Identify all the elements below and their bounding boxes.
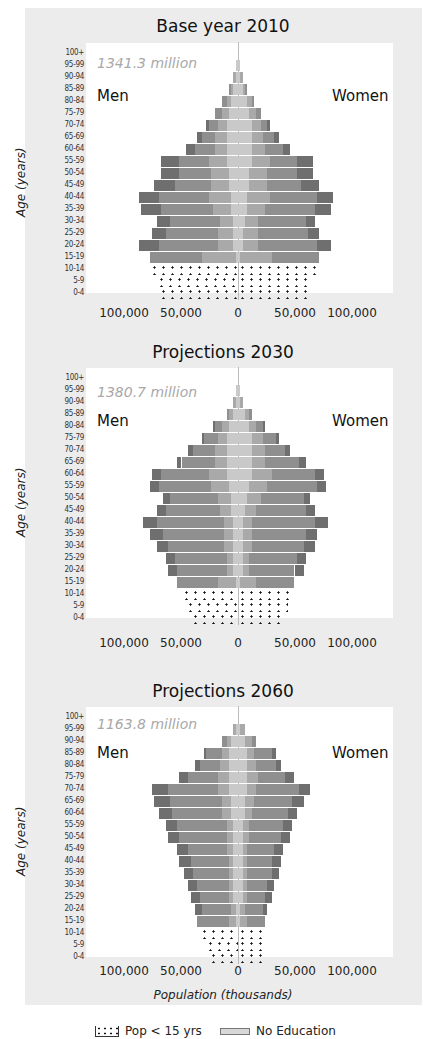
secondary-segment — [222, 736, 227, 747]
secondary-segment — [179, 168, 211, 179]
age-tick-label: 20-24 — [65, 240, 84, 250]
x-tick-label: 0 — [234, 306, 242, 320]
legend-item-no-education: No Education — [220, 1024, 336, 1038]
secondary-segment — [170, 216, 220, 227]
secondary-segment — [200, 892, 229, 903]
no-education-segment — [229, 481, 238, 492]
no-education-segment — [227, 445, 238, 456]
primary-segment — [245, 505, 256, 516]
age-tick-label: 50-54 — [65, 168, 84, 178]
age-tick-label: 95-99 — [65, 724, 84, 734]
y-axis-label: Age (years) — [14, 148, 28, 217]
primary-segment — [247, 493, 261, 504]
secondary-segment — [270, 156, 297, 167]
x-tick-label: 0 — [234, 964, 242, 978]
under-15-bar — [238, 276, 313, 287]
age-tick-label: 80-84 — [65, 760, 84, 770]
under-15-bar — [200, 928, 238, 939]
primary-segment — [243, 240, 259, 251]
primary-segment — [243, 228, 259, 239]
no-education-segment — [238, 481, 249, 492]
women-label: Women — [332, 744, 388, 762]
primary-segment — [215, 445, 226, 456]
age-tick-label: 30-34 — [65, 541, 84, 551]
primary-segment — [252, 156, 270, 167]
secondary-segment — [252, 541, 304, 552]
secondary-segment — [256, 784, 299, 795]
age-tick-label: 25-29 — [65, 228, 84, 238]
secondary-segment — [170, 493, 217, 504]
tertiary-segment — [306, 216, 315, 227]
secondary-segment — [215, 421, 222, 432]
tertiary-segment — [191, 892, 200, 903]
primary-segment — [243, 820, 250, 831]
no-education-segment — [238, 168, 249, 179]
no-education-segment — [229, 421, 238, 432]
dots-swatch-icon — [95, 1026, 119, 1037]
tertiary-segment — [315, 204, 331, 215]
under-15-bar — [209, 952, 238, 963]
age-tick-label: 45-49 — [65, 180, 84, 190]
no-education-segment — [229, 108, 238, 119]
tertiary-segment — [276, 760, 281, 771]
primary-segment — [240, 397, 242, 408]
no-education-segment — [238, 445, 252, 456]
primary-segment — [222, 421, 229, 432]
age-tick-label: 5-9 — [73, 601, 84, 611]
primary-segment — [229, 868, 234, 879]
women-label: Women — [332, 412, 388, 430]
no-education-segment — [238, 772, 247, 783]
secondary-segment — [247, 856, 272, 867]
tertiary-segment — [168, 832, 179, 843]
tertiary-segment — [304, 541, 315, 552]
primary-segment — [218, 120, 227, 131]
primary-segment — [211, 180, 229, 191]
under-15-bar — [186, 601, 238, 612]
secondary-segment — [252, 529, 306, 540]
tertiary-segment — [195, 904, 202, 915]
no-education-segment — [238, 808, 245, 819]
age-tick-label: 80-84 — [65, 96, 84, 106]
no-education-segment — [231, 96, 238, 107]
secondary-segment — [265, 204, 315, 215]
x-tick-label: 100,000 — [99, 636, 149, 650]
secondary-segment — [249, 565, 294, 576]
tertiary-segment — [272, 868, 279, 879]
age-tick-label: 65-69 — [65, 457, 84, 467]
secondary-segment — [172, 808, 222, 819]
total-population: 1380.7 million — [97, 384, 197, 400]
secondary-segment — [272, 252, 319, 263]
no-education-segment — [227, 120, 238, 131]
primary-segment — [252, 445, 266, 456]
tertiary-segment — [283, 144, 290, 155]
primary-segment — [227, 820, 234, 831]
secondary-segment — [249, 820, 283, 831]
x-tick-label: 50,000 — [274, 306, 316, 320]
secondary-segment — [265, 144, 283, 155]
x-axis-ticks: 100,00050,000050,000100,000 — [0, 306, 446, 322]
legend-label: No Education — [256, 1024, 336, 1038]
primary-segment — [249, 180, 267, 191]
tertiary-segment — [186, 144, 195, 155]
under-15-bar — [157, 276, 238, 287]
secondary-segment — [261, 120, 268, 131]
x-tick-label: 100,000 — [327, 964, 377, 978]
secondary-segment — [254, 796, 292, 807]
under-15-bar — [238, 928, 267, 939]
no-education-segment — [227, 457, 238, 468]
tertiary-segment — [179, 772, 188, 783]
no-education-segment — [238, 156, 252, 167]
tertiary-segment — [263, 421, 265, 432]
under-15-bar — [238, 589, 292, 600]
no-education-segment — [238, 216, 245, 227]
no-education-segment — [238, 108, 249, 119]
primary-segment — [202, 252, 236, 263]
secondary-segment — [159, 481, 211, 492]
under-15-bar — [159, 288, 238, 299]
primary-segment — [227, 832, 234, 843]
secondary-segment — [263, 433, 277, 444]
secondary-segment — [209, 120, 218, 131]
primary-segment — [209, 156, 227, 167]
primary-segment — [218, 772, 229, 783]
tertiary-segment — [188, 880, 197, 891]
